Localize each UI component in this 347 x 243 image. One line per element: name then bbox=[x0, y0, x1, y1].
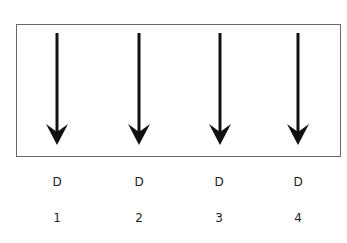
arrow-index: 2 bbox=[124, 211, 154, 225]
arrow-index: 3 bbox=[204, 211, 234, 225]
arrow-label: D bbox=[204, 175, 234, 189]
arrows-layer bbox=[0, 0, 347, 243]
arrow-label: D bbox=[42, 175, 72, 189]
down-arrow-icon bbox=[209, 33, 231, 145]
down-arrow-icon bbox=[287, 33, 309, 145]
arrow-index: 4 bbox=[283, 211, 313, 225]
arrow-index: 1 bbox=[42, 211, 72, 225]
arrow-label: D bbox=[124, 175, 154, 189]
arrow-label: D bbox=[283, 175, 313, 189]
down-arrow-icon bbox=[128, 33, 150, 145]
down-arrow-icon bbox=[46, 33, 68, 145]
